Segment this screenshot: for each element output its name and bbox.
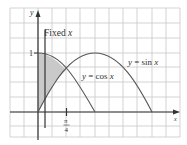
y-tick-label: 1 <box>29 49 33 58</box>
fixed-x-label: Fixed x <box>44 28 73 38</box>
y-axis-arrow-icon <box>36 10 41 17</box>
x-axis-label: x <box>173 116 177 122</box>
pi-over-4-numerator: π <box>64 117 68 125</box>
pi-over-4-denominator: 4 <box>65 126 69 134</box>
y-axis-label: y <box>29 8 34 17</box>
x-axis-arrow-icon <box>173 110 180 115</box>
figure-canvas: y x 1 π 4 Fixed x y = sin x y = cos x <box>0 0 187 145</box>
sin-curve-label: y = sin x <box>127 57 158 67</box>
cos-curve-label: y = cos x <box>81 71 114 81</box>
